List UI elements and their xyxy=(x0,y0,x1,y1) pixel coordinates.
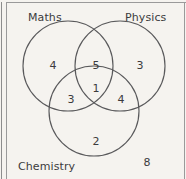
set-label-chemistry: Chemistry xyxy=(18,160,75,173)
region-count-all-three: 1 xyxy=(89,82,103,95)
region-count-maths-chemistry: 3 xyxy=(64,93,78,106)
set-label-maths: Maths xyxy=(28,11,62,24)
venn-diagram-figure: Maths Physics Chemistry 4 5 3 1 3 4 2 8 xyxy=(0,0,186,179)
region-count-maths-only: 4 xyxy=(46,59,60,72)
set-label-physics: Physics xyxy=(125,11,166,24)
region-count-physics-chemistry: 4 xyxy=(114,93,128,106)
region-count-physics-only: 3 xyxy=(133,59,147,72)
region-count-chemistry-only: 2 xyxy=(89,135,103,148)
region-count-maths-physics: 5 xyxy=(89,59,103,72)
region-count-outside-universal: 8 xyxy=(140,156,154,169)
